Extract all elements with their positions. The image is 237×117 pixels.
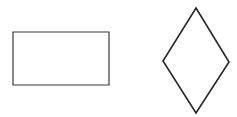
diamond-shape	[163, 8, 229, 113]
rectangle-shape	[13, 32, 109, 85]
shapes-svg-layer	[0, 0, 237, 117]
geometric-shapes-canvas	[0, 0, 237, 117]
